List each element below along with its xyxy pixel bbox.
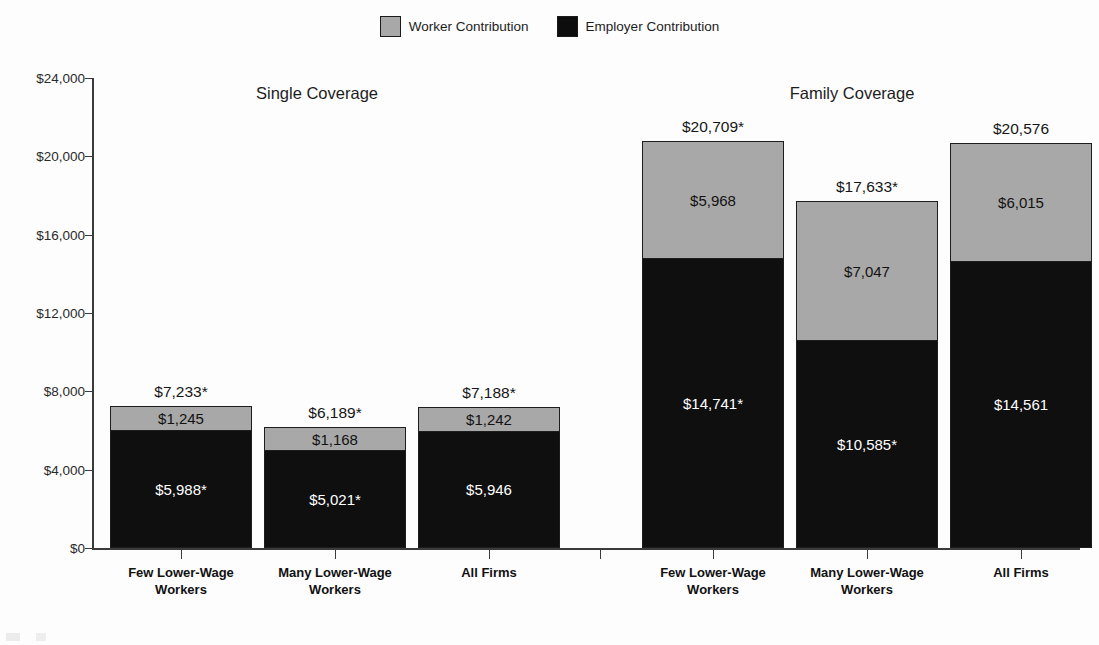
x-axis-label-line1: Many Lower-Wage [810,565,924,580]
x-axis-label-s1: Many Lower-Wage Workers [278,564,392,598]
bar-segment-worker[interactable]: $1,245 [110,406,252,430]
bar-segment-label: $5,946 [466,481,512,498]
x-tick [181,550,182,559]
x-axis-label-line2: Workers [278,581,392,598]
bar-s0[interactable]: $7,233* $1,245 $5,988* [110,76,252,548]
bar-total-label: $20,576 [993,120,1049,138]
bar-segment-employer[interactable]: $5,946 [418,431,560,548]
bar-total-label: $6,189* [308,404,361,422]
bar-segment-label: $5,988* [155,481,207,498]
bar-segment-worker[interactable]: $1,242 [418,407,560,431]
y-tick-label: $20,000 [36,149,85,164]
bar-segment-label: $14,741* [683,395,743,412]
y-tick [85,156,92,157]
y-tick [85,548,92,549]
bar-segment-worker[interactable]: $6,015 [950,143,1092,261]
square-swatch-icon [380,16,401,37]
y-tick-label: $0 [70,541,85,556]
x-axis-label-line2: Workers [660,581,766,598]
bar-segment-employer[interactable]: $14,741* [642,258,784,548]
x-axis-label-line2: Workers [810,581,924,598]
bar-segment-label: $1,245 [158,410,204,427]
x-axis-line [92,548,1080,550]
x-axis-label-f2: All Firms [993,564,1049,581]
y-tick-label: $12,000 [36,306,85,321]
square-swatch-icon [557,16,578,37]
x-axis-label-line1: All Firms [993,565,1049,580]
x-axis-label-f1: Many Lower-Wage Workers [810,564,924,598]
bar-segment-label: $1,242 [466,411,512,428]
x-tick [335,550,336,559]
y-tick [85,78,92,79]
x-axis-label-s0: Few Lower-Wage Workers [128,564,234,598]
x-tick [1021,550,1022,559]
bar-segment-label: $14,561 [994,396,1048,413]
bar-segment-label: $10,585* [837,436,897,453]
bar-segment-label: $5,021* [309,491,361,508]
bar-f2[interactable]: $20,576 $6,015 $14,561 [950,76,1092,548]
bar-segment-employer[interactable]: $5,021* [264,450,406,548]
bar-f1[interactable]: $17,633* $7,047 $10,585* [796,76,938,548]
x-axis-label-line1: Many Lower-Wage [278,565,392,580]
chart-page: Worker Contribution Employer Contributio… [0,0,1099,645]
x-tick [489,550,490,559]
y-tick [85,470,92,471]
y-tick-label: $16,000 [36,228,85,243]
bar-segment-label: $6,015 [998,194,1044,211]
y-tick-label: $8,000 [44,384,85,399]
bar-total-label: $7,233* [154,383,207,401]
x-axis-label-line2: Workers [128,581,234,598]
legend-item-worker: Worker Contribution [380,16,529,37]
y-tick-label: $4,000 [44,463,85,478]
bar-f0[interactable]: $20,709* $5,968 $14,741* [642,76,784,548]
y-tick [85,235,92,236]
bar-segment-label: $5,968 [690,192,736,209]
chart-legend: Worker Contribution Employer Contributio… [0,16,1099,37]
y-tick-label: $24,000 [36,71,85,86]
x-axis-label-f0: Few Lower-Wage Workers [660,564,766,598]
bar-segment-worker[interactable]: $1,168 [264,427,406,450]
legend-item-employer: Employer Contribution [557,16,720,37]
bar-segment-employer[interactable]: $5,988* [110,430,252,548]
x-tick [713,550,714,559]
plot-area: $0 $4,000 $8,000 $12,000 $16,000 $20,000… [92,78,1080,550]
bar-s1[interactable]: $6,189* $1,168 $5,021* [264,76,406,548]
x-tick-divider [600,550,601,559]
bar-total-label: $20,709* [682,118,744,136]
legend-label-worker: Worker Contribution [409,19,529,34]
y-tick [85,391,92,392]
bar-segment-employer[interactable]: $10,585* [796,340,938,548]
bar-segment-employer[interactable]: $14,561 [950,261,1092,548]
x-axis-label-s2: All Firms [461,564,517,581]
scan-artifact [6,633,96,641]
bar-total-label: $7,188* [462,384,515,402]
bar-s2[interactable]: $7,188* $1,242 $5,946 [418,76,560,548]
y-axis-labels: $0 $4,000 $8,000 $12,000 $16,000 $20,000… [7,78,85,550]
x-axis-label-line1: All Firms [461,565,517,580]
x-axis-label-line1: Few Lower-Wage [128,565,234,580]
bar-segment-label: $1,168 [312,431,358,448]
x-axis-label-line1: Few Lower-Wage [660,565,766,580]
y-axis-line [92,78,94,550]
bar-segment-worker[interactable]: $5,968 [642,141,784,258]
legend-label-employer: Employer Contribution [586,19,720,34]
x-tick [867,550,868,559]
bar-total-label: $17,633* [836,178,898,196]
bar-segment-label: $7,047 [844,263,890,280]
y-tick [85,313,92,314]
bar-segment-worker[interactable]: $7,047 [796,201,938,340]
